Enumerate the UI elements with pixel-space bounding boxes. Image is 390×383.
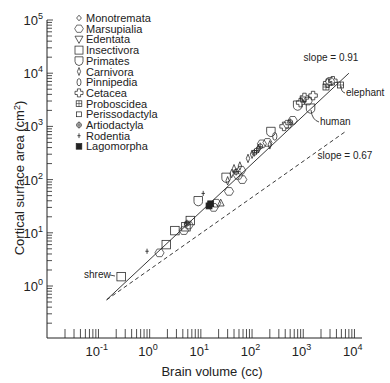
plus-marker	[202, 191, 205, 196]
annotation-human: human	[320, 116, 351, 127]
small-square-marker	[77, 112, 82, 117]
small-diamond-marker	[77, 15, 82, 21]
plus-marker	[77, 133, 80, 138]
annotation-shrew: shrew	[84, 269, 111, 280]
y-tick-label: 104	[24, 64, 43, 81]
x-tick-label: 101	[189, 342, 208, 359]
legend-label: Lagomorpha	[86, 140, 149, 152]
x-tick-label: 103	[292, 342, 311, 359]
x-axis-label: Brain volume (cc)	[161, 364, 262, 379]
thin-diamond-marker	[226, 177, 229, 186]
data-points	[117, 77, 344, 281]
y-axis-label: Cortical surface area (cm2)	[12, 101, 27, 256]
y-tick-label: 100	[24, 277, 43, 294]
oval-marker	[77, 79, 81, 86]
legend: MonotremataMarsupialiaEdentataInsectivor…	[75, 12, 159, 152]
flower-marker	[323, 79, 332, 88]
x-tick-label: 102	[241, 342, 260, 359]
x-tick-label: 104	[343, 342, 362, 359]
annotation-elephant-leader	[341, 86, 345, 93]
x-tick-label: 100	[138, 342, 157, 359]
hexagon-marker	[224, 188, 233, 196]
slope-label-solid: slope = 0.91	[304, 52, 359, 63]
slope-label-dashed: slope = 0.67	[318, 150, 373, 161]
filled-square-marker	[76, 144, 82, 150]
y-tick-label: 105	[24, 11, 43, 28]
square-marker	[117, 272, 126, 281]
thin-diamond-marker	[238, 162, 241, 171]
annotation-elephant: elephant	[346, 87, 385, 98]
x-axis-ticks: 10-1100101102103104	[65, 329, 363, 359]
thin-diamond-marker	[77, 68, 80, 76]
fit-line-slope-067	[107, 132, 346, 300]
annotation-shrew-leader	[110, 275, 115, 276]
thin-diamond-marker	[246, 154, 249, 163]
shield-marker	[75, 57, 83, 66]
grid-square-marker	[76, 101, 82, 107]
annotation-human-leader	[311, 110, 319, 122]
circle-plus-marker	[77, 121, 82, 128]
y-axis-ticks: 100101102103104105	[24, 11, 53, 323]
plus-marker	[145, 249, 148, 254]
shield-marker	[267, 127, 276, 136]
x-tick-label: 10-1	[86, 342, 108, 359]
legend-item-lagomorpha: Lagomorpha	[76, 140, 148, 152]
flower-marker	[75, 89, 83, 97]
square-marker	[75, 46, 83, 54]
shield-marker	[194, 197, 203, 206]
scatter-chart: 100101102103104105 10-1100101102103104 s…	[0, 0, 390, 383]
hexagon-marker	[238, 176, 247, 184]
flower-marker	[309, 91, 318, 100]
hexagon-marker	[75, 25, 84, 32]
triangle-down-marker	[75, 36, 83, 43]
